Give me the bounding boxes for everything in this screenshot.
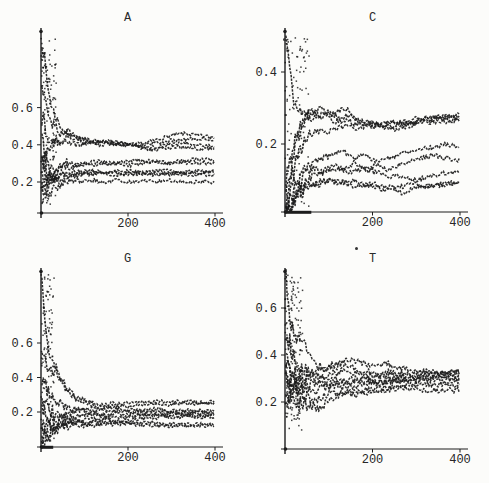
axis-origin-dot <box>284 447 288 451</box>
y-tick-label: 0.4 <box>11 372 33 386</box>
y-tick-label: 0.6 <box>11 102 33 116</box>
plot-A-canvas: 0.20.40.6200400 <box>0 0 245 242</box>
y-tick-label: 0.4 <box>11 139 33 153</box>
series-line-seq-2 <box>42 353 214 410</box>
axis-origin-dot <box>40 211 44 215</box>
x-tick-label: 200 <box>362 216 384 230</box>
axis-top-dot <box>283 30 287 34</box>
baseline-bar <box>285 211 311 214</box>
scan-speck <box>355 247 358 250</box>
series-line-seq-5 <box>286 142 459 203</box>
plot-T: T 0.20.40.6200400 <box>245 241 489 483</box>
x-tick-label: 400 <box>204 451 226 465</box>
series-group <box>42 48 214 204</box>
series-line-seq-10 <box>42 178 214 199</box>
plot-A: A 0.20.40.6200400 <box>0 0 245 242</box>
series-line-seq-7 <box>42 168 214 191</box>
y-tick-label: 0.2 <box>11 176 33 190</box>
y-tick-label: 0.4 <box>255 349 277 363</box>
series-line-seq-1 <box>286 269 459 374</box>
series-line-seq-7 <box>286 361 459 412</box>
plot-C-canvas: 0.20.4200400 <box>245 0 489 242</box>
plot-C: C 0.20.4200400 <box>245 0 489 242</box>
y-tick-label: 0.2 <box>255 138 277 152</box>
series-group <box>42 278 214 447</box>
series-group <box>286 269 459 411</box>
series-line-seq-9 <box>286 179 459 213</box>
scanned-figure: A 0.20.40.6200400 C 0.20.4200400 G 0.20.… <box>0 0 489 483</box>
series-line-seq-7 <box>286 167 459 212</box>
plot-G-canvas: 0.20.40.6200400 <box>0 241 245 483</box>
x-tick-label: 200 <box>117 217 139 231</box>
x-tick-label: 200 <box>362 453 384 467</box>
axis-top-dot <box>39 30 43 34</box>
series-line-seq-5 <box>42 134 214 177</box>
series-line-seq-2 <box>42 87 214 148</box>
x-tick-label: 200 <box>117 451 139 465</box>
axis-top-dot <box>39 270 43 274</box>
plot-G: G 0.20.40.6200400 <box>0 241 245 483</box>
axis-origin-dot <box>284 210 288 214</box>
scan-speck <box>283 38 286 41</box>
x-tick-label: 400 <box>449 216 471 230</box>
series-line-seq-9 <box>42 422 214 447</box>
plot-T-canvas: 0.20.40.6200400 <box>245 241 489 483</box>
y-tick-label: 0.6 <box>11 337 33 351</box>
y-tick-label: 0.6 <box>255 302 277 316</box>
series-line-seq-1 <box>42 278 214 407</box>
y-tick-label: 0.2 <box>255 396 277 410</box>
y-tick-label: 0.2 <box>11 406 33 420</box>
series-line-seq-1 <box>42 48 214 145</box>
y-tick-label: 0.4 <box>255 66 277 80</box>
axis-origin-dot <box>40 445 44 449</box>
x-tick-label: 400 <box>204 217 226 231</box>
series-group <box>286 36 459 212</box>
series-line-seq-4 <box>286 118 459 208</box>
x-tick-label: 400 <box>449 453 471 467</box>
axis-top-dot <box>283 270 287 274</box>
